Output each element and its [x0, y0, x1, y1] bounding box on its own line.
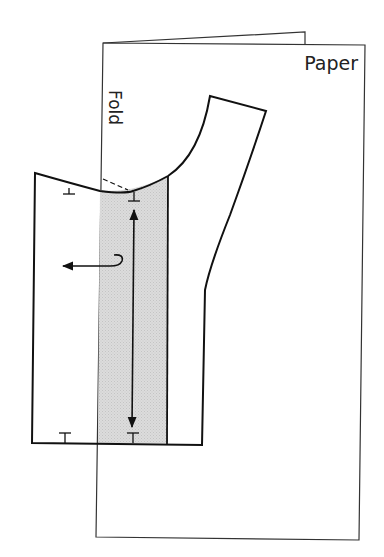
- pattern-diagram: Paper Fold: [0, 0, 384, 557]
- band-right-edge: [167, 176, 168, 445]
- paper-back-sheet: [103, 32, 305, 44]
- fold-label: Fold: [105, 90, 125, 125]
- paper-label: Paper: [304, 52, 358, 74]
